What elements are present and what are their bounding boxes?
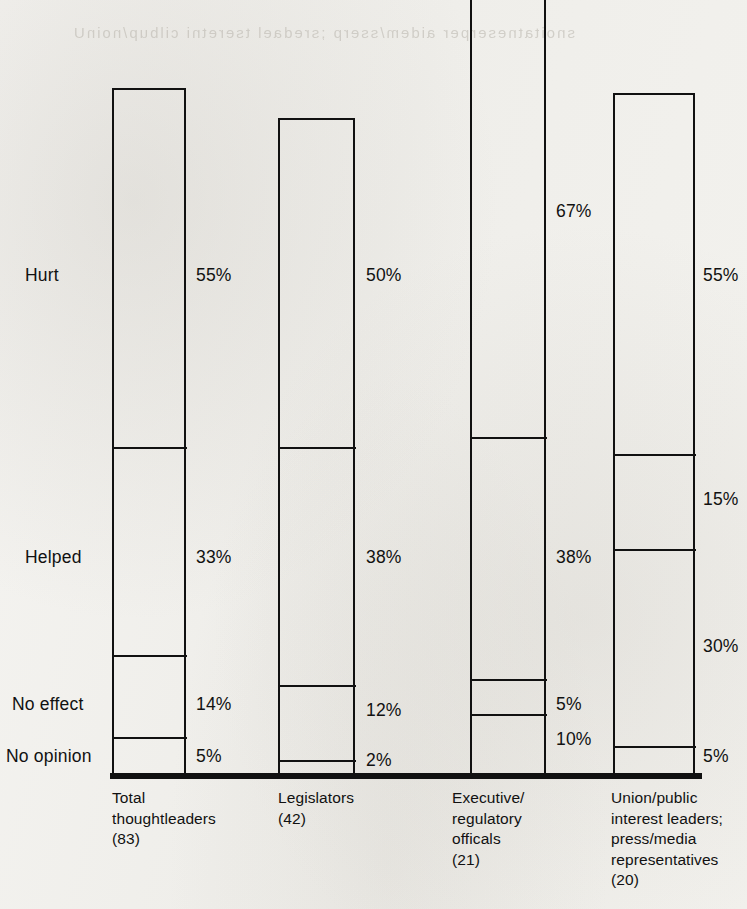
segment-label-hurt: Hurt (25, 265, 59, 286)
divider-noeffect-noopinion-bar4 (613, 746, 696, 748)
value-label-bar3-hurt: 67% (556, 201, 592, 222)
divider-hurt-helped-bar1 (112, 447, 187, 449)
value-label-bar1-helped: 33% (196, 547, 232, 568)
category-label-total-thoughtleaders: Total thoughtleaders (83) (112, 788, 262, 850)
value-label-bar2-hurt: 50% (366, 265, 402, 286)
divider-helped-noeffect-bar3 (470, 679, 547, 681)
divider-hurt-helped-bar2 (278, 447, 356, 449)
bar-legislators (278, 118, 355, 775)
value-label-bar2-no-effect: 12% (366, 700, 402, 721)
divider-hurt-helped-bar3 (470, 437, 547, 439)
category-label-legislators: Legislators (42) (278, 788, 428, 829)
divider-helped-noeffect-bar2 (278, 685, 356, 687)
divider-noeffect-noopinion-bar1 (112, 737, 187, 739)
divider-hurt-helped-bar4 (613, 454, 696, 456)
segment-label-no-opinion: No opinion (6, 746, 92, 767)
category-label-executive-regulatory: Executive/ regulatory officals (21) (452, 788, 602, 870)
bar-union-public-interest (613, 93, 695, 775)
value-label-bar3-helped: 38% (556, 547, 592, 568)
value-label-bar3-no-opinion: 10% (556, 729, 592, 750)
stacked-bar-chart: snoitatneserper aidem/sserp ;sredael tse… (0, 0, 747, 909)
value-label-bar4-helped: 15% (703, 489, 739, 510)
category-label-union-public-interest: Union/public interest leaders; press/med… (611, 788, 747, 891)
divider-noeffect-noopinion-bar3 (470, 714, 547, 716)
divider-helped-noeffect-bar4 (613, 549, 696, 551)
segment-label-no-effect: No effect (12, 694, 84, 715)
divider-helped-noeffect-bar1 (112, 655, 187, 657)
value-label-bar1-no-opinion: 5% (196, 746, 222, 767)
value-label-bar2-no-opinion: 2% (366, 750, 392, 771)
divider-noeffect-noopinion-bar2 (278, 760, 356, 762)
value-label-bar4-no-opinion: 5% (703, 746, 729, 767)
baseline-axis (110, 773, 702, 779)
value-label-bar4-hurt: 55% (703, 265, 739, 286)
value-label-bar4-no-effect: 30% (703, 636, 739, 657)
value-label-bar2-helped: 38% (366, 547, 402, 568)
value-label-bar3-no-effect: 5% (556, 694, 582, 715)
bar-total-thoughtleaders (112, 88, 186, 775)
segment-label-helped: Helped (25, 547, 82, 568)
value-label-bar1-hurt: 55% (196, 265, 232, 286)
value-label-bar1-no-effect: 14% (196, 694, 232, 715)
bar-executive-regulatory (470, 0, 546, 775)
